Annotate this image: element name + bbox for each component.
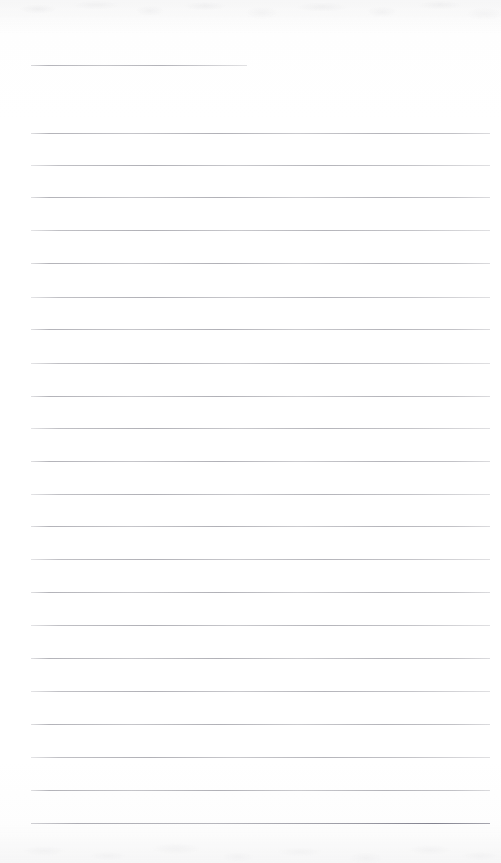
ruled-line (31, 494, 490, 495)
scan-texture-bottom (0, 823, 501, 863)
ruled-line (31, 133, 490, 134)
ruled-line (31, 461, 490, 462)
ruled-line (31, 658, 490, 659)
ruled-line (31, 263, 490, 264)
scanned-page (0, 0, 501, 863)
ruled-line (31, 592, 490, 593)
ruled-line (31, 724, 490, 725)
ruled-line (31, 297, 490, 298)
ruled-line (31, 559, 490, 560)
ruled-line (31, 230, 490, 231)
ruled-line (31, 65, 247, 66)
ruled-line (31, 428, 490, 429)
ruled-line (31, 329, 490, 330)
ruled-line (31, 691, 490, 692)
ruled-line (31, 757, 490, 758)
ruled-line (31, 526, 490, 527)
ruled-lines-layer (0, 0, 501, 863)
ruled-line (31, 363, 490, 364)
ruled-line (31, 790, 490, 791)
ruled-line (31, 197, 490, 198)
ruled-line (31, 165, 490, 166)
ruled-line (31, 396, 490, 397)
ruled-line (31, 625, 490, 626)
